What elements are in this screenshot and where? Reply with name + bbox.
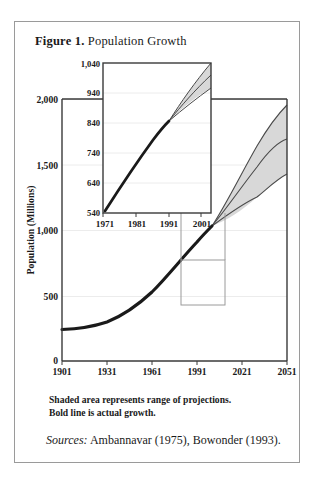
sources-label: Sources: xyxy=(46,433,88,447)
inset-x-tick-1981: 1981 xyxy=(128,219,147,229)
x-tick-1931: 1931 xyxy=(97,366,116,377)
main-y-tick-labels: 0 500 1,000 1,500 2,000 xyxy=(36,94,58,366)
inset-y-tick-1040: 1,040 xyxy=(81,59,100,69)
inset-x-tick-labels: 1971 1981 1991 2001 xyxy=(96,219,212,229)
inset-x-tick-2001: 2001 xyxy=(193,219,212,229)
inset-x-tick-1971: 1971 xyxy=(96,219,115,229)
x-tick-2051: 2051 xyxy=(277,366,296,377)
y-tick-1500: 1,500 xyxy=(36,160,58,171)
inset-x-tick-1991: 1991 xyxy=(160,219,179,229)
y-axis-title: Population (Millions) xyxy=(25,186,37,275)
inset-y-tick-740: 740 xyxy=(87,148,100,158)
inset-y-tick-640: 640 xyxy=(87,178,100,188)
sources-text: Ambannavar (1975), Bowonder (1993). xyxy=(88,433,281,447)
inset-y-tick-940: 940 xyxy=(87,88,100,98)
x-tick-1961: 1961 xyxy=(142,366,161,377)
inset-y-tick-labels: 540 640 740 840 940 1,040 xyxy=(81,59,100,218)
main-x-tick-labels: 1901 1931 1961 1991 2021 2051 xyxy=(52,366,296,377)
figure-frame: Figure 1. Population Growth xyxy=(14,21,300,463)
caption-note-line1: Shaded area represents range of projecti… xyxy=(49,394,231,407)
y-tick-2000: 2,000 xyxy=(36,94,58,105)
inset-y-tick-540: 540 xyxy=(87,208,100,218)
sources-block: Sources: Ambannavar (1975), Bowonder (19… xyxy=(46,433,296,448)
inset-y-tick-840: 840 xyxy=(87,118,100,128)
inset-source-region-box xyxy=(181,260,225,305)
y-tick-1000: 1,000 xyxy=(36,225,58,236)
x-tick-1901: 1901 xyxy=(52,366,71,377)
caption-note: Shaded area represents range of projecti… xyxy=(49,394,231,419)
y-tick-0: 0 xyxy=(53,355,58,366)
y-tick-500: 500 xyxy=(44,291,59,302)
x-tick-1991: 1991 xyxy=(187,366,206,377)
actual-growth-line-main xyxy=(62,226,212,330)
inset-chart: 540 640 740 840 940 1,040 1971 1981 1991… xyxy=(81,59,212,229)
caption-note-line2: Bold line is actual growth. xyxy=(49,407,231,420)
x-tick-2021: 2021 xyxy=(232,366,251,377)
